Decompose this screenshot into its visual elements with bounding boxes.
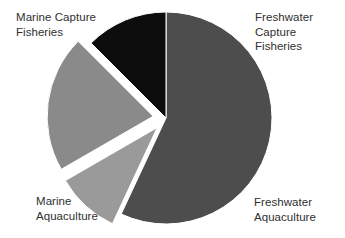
slice-label-freshwater-aquaculture: Freshwater Aquaculture xyxy=(254,195,316,224)
slice-label-marine-capture-fisheries: Marine Capture Fisheries xyxy=(16,10,96,39)
pie-chart: Marine Capture Fisheries Freshwater Capt… xyxy=(0,0,345,238)
slice-label-marine-aquaculture: Marine Aquaculture xyxy=(36,194,98,223)
slice-label-freshwater-capture-fisheries: Freshwater Capture Fisheries xyxy=(255,10,313,54)
